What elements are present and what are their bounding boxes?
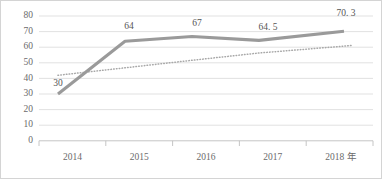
data-label-2015: 64 [124,21,134,31]
y-tick-label-10: 10 [24,119,34,129]
data-label-2014: 30 [53,78,63,88]
chart-canvas: 80 70 60 50 40 30 20 10 0 2014 2015 2016… [1,1,382,179]
x-axis-line-group [39,141,373,146]
y-tick-label-30: 30 [24,88,34,98]
line-chart-figure: 80 70 60 50 40 30 20 10 0 2014 2015 2016… [0,0,382,179]
x-tick-label-2014: 2014 [63,152,82,162]
x-tick-label-2018: 2018 年 [325,151,356,162]
y-tick-label-40: 40 [24,73,34,83]
y-axis-tick-labels: 80 70 60 50 40 30 20 10 0 [24,10,34,145]
data-label-2016: 67 [192,18,202,28]
y-tick-label-50: 50 [24,57,34,67]
x-tick-label-2015: 2015 [130,152,149,162]
data-labels-group: 30 64 67 64. 5 70. 3 [53,8,356,88]
y-tick-label-20: 20 [24,104,34,114]
data-label-2017: 64. 5 [259,22,278,32]
x-tick-label-2016: 2016 [197,152,216,162]
y-tick-label-0: 0 [28,135,33,145]
y-tick-label-60: 60 [24,41,34,51]
x-axis-tick-labels: 2014 2015 2016 2017 2018 年 [63,151,357,162]
y-tick-label-80: 80 [24,10,34,20]
data-label-2018: 70. 3 [337,8,356,18]
y-tick-label-70: 70 [24,26,34,36]
x-tick-label-2017: 2017 [263,152,282,162]
